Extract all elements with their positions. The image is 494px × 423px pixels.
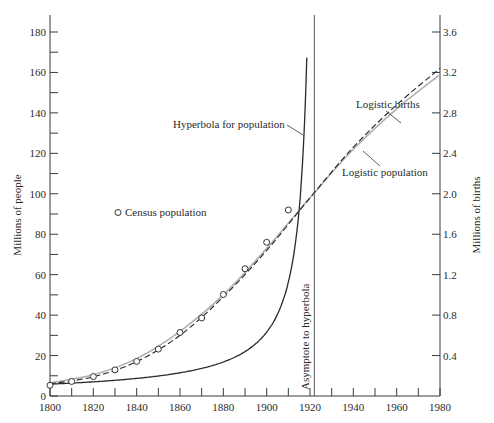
y2-tick-label: 2.4 xyxy=(443,147,457,159)
chart-canvas: 0204060801001201401601800.40.81.21.62.02… xyxy=(0,0,494,423)
census-point xyxy=(112,367,118,373)
logistic-population-label: Logistic population xyxy=(342,166,428,178)
y2-tick-label: 1.6 xyxy=(443,228,457,240)
x-tick-label: 1920 xyxy=(299,401,322,413)
annotations: Millions of people Millions of births Hy… xyxy=(11,98,482,390)
x-tick-label: 1880 xyxy=(212,401,235,413)
population-chart: 0204060801001201401601800.40.81.21.62.02… xyxy=(0,0,494,423)
y-tick-label: 120 xyxy=(30,147,47,159)
census-point xyxy=(47,382,53,388)
hyperbola-arrow xyxy=(287,125,303,135)
census-label: Census population xyxy=(125,206,207,218)
census-point xyxy=(177,330,183,336)
y2-tick-label: 2.0 xyxy=(443,188,457,200)
y-tick-label: 140 xyxy=(30,107,47,119)
x-tick-label: 1960 xyxy=(386,401,409,413)
x-tick-label: 1860 xyxy=(169,401,192,413)
census-point xyxy=(264,239,270,245)
y-tick-label: 180 xyxy=(30,26,47,38)
census-point xyxy=(220,291,226,297)
census-point xyxy=(69,378,75,384)
census-point xyxy=(242,266,248,272)
x-tick-label: 1980 xyxy=(429,401,452,413)
y-tick-label: 60 xyxy=(35,269,47,281)
y-tick-label: 20 xyxy=(35,350,47,362)
census-markers xyxy=(47,207,291,388)
census-legend-marker xyxy=(115,210,121,216)
y2-axis-title: Millions of births xyxy=(470,176,482,253)
y2-tick-label: 0.8 xyxy=(443,309,457,321)
hyperbola-label: Hyperbola for population xyxy=(173,118,285,130)
y2-tick-label: 3.2 xyxy=(443,66,457,78)
x-tick-label: 1820 xyxy=(82,401,105,413)
x-tick-label: 1900 xyxy=(256,401,279,413)
curves xyxy=(50,15,440,396)
x-tick-label: 1800 xyxy=(39,401,62,413)
y2-tick-label: 0.4 xyxy=(443,350,457,362)
asymptote-label: Asymptote to hyperbola xyxy=(299,284,311,390)
y2-tick-label: 1.2 xyxy=(443,269,457,281)
census-point xyxy=(199,315,205,321)
x-tick-label: 1840 xyxy=(126,401,149,413)
y-tick-label: 160 xyxy=(30,66,47,78)
x-tick-label: 1940 xyxy=(342,401,365,413)
census-point xyxy=(285,207,291,213)
y2-tick-label: 3.6 xyxy=(443,26,457,38)
y-tick-label: 40 xyxy=(35,309,47,321)
logistic-population-arrow xyxy=(363,151,380,166)
y-axis-title: Millions of people xyxy=(11,174,23,255)
census-point xyxy=(90,374,96,380)
census-point xyxy=(155,346,161,352)
y2-tick-label: 2.8 xyxy=(443,107,457,119)
census-point xyxy=(134,358,140,364)
y-tick-label: 100 xyxy=(30,188,47,200)
y-tick-label: 80 xyxy=(35,228,47,240)
logistic-births-label: Logistic births xyxy=(356,98,420,110)
logistic-births-curve xyxy=(50,68,440,383)
